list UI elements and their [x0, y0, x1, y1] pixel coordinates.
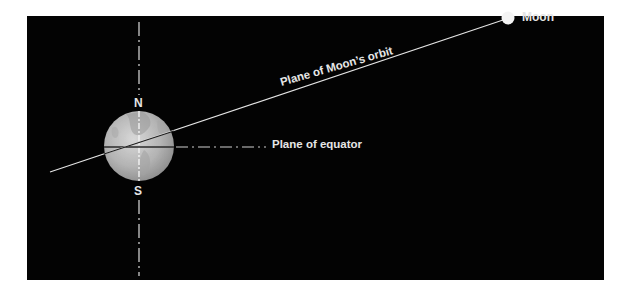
- north-pole-label: N: [134, 96, 143, 110]
- moon-icon: [502, 12, 515, 25]
- moon-label: Moon: [522, 10, 554, 24]
- earth-moon-orbit-diagram: [0, 0, 634, 300]
- south-pole-label: S: [134, 184, 142, 198]
- earth-globe: [104, 111, 174, 181]
- equator-plane-label: Plane of equator: [272, 138, 362, 150]
